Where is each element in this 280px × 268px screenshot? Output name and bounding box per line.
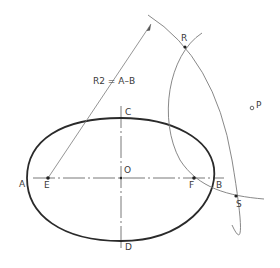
ellipse-construction-diagram bbox=[0, 0, 280, 268]
label-r: R bbox=[181, 34, 187, 43]
point-r bbox=[183, 45, 186, 48]
construction-arc-large bbox=[148, 15, 241, 235]
label-s: S bbox=[236, 200, 242, 209]
label-radius-note: R2 = A–B bbox=[93, 77, 135, 86]
point-p bbox=[250, 106, 254, 110]
label-p: P bbox=[256, 101, 261, 110]
label-b: B bbox=[216, 181, 222, 190]
label-o: O bbox=[124, 166, 131, 175]
point-s bbox=[234, 194, 237, 197]
label-c: C bbox=[125, 108, 131, 117]
label-a: A bbox=[19, 180, 25, 189]
label-d: D bbox=[125, 243, 132, 252]
label-f: F bbox=[189, 181, 194, 190]
label-e: E bbox=[44, 181, 50, 190]
radius-line-r2 bbox=[48, 24, 151, 178]
construction-arc-small bbox=[168, 33, 264, 199]
point-o bbox=[120, 177, 123, 180]
